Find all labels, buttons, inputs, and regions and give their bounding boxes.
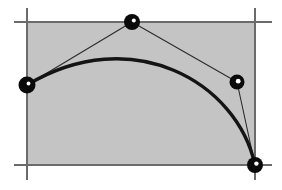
control-point-highlight-icon <box>236 79 241 84</box>
control-point-p1[interactable] <box>124 14 140 30</box>
control-point-highlight-icon <box>254 161 258 165</box>
convex-hull-rect <box>27 22 255 165</box>
control-point-p0[interactable] <box>19 77 36 94</box>
bezier-figure-svg <box>0 0 282 190</box>
control-point-p2[interactable] <box>230 75 245 90</box>
control-point-dot-icon[interactable] <box>19 77 36 94</box>
convex-hull-group <box>27 22 255 165</box>
control-point-dot-icon[interactable] <box>124 14 140 30</box>
control-point-p3[interactable] <box>247 157 263 173</box>
control-point-highlight-icon <box>27 82 31 86</box>
bezier-figure-container <box>0 0 282 190</box>
control-point-highlight-icon <box>132 18 136 22</box>
